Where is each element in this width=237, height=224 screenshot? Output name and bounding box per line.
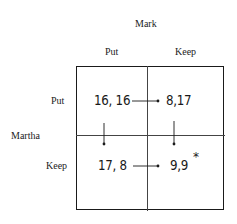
best-response-arrows [0, 0, 237, 224]
